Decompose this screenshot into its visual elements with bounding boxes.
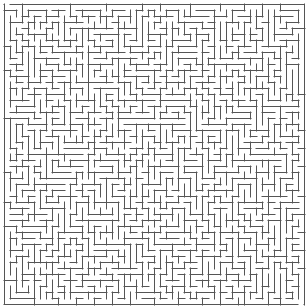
maze-grid (0, 0, 307, 308)
maze-walls (4, 4, 305, 305)
maze-canvas (0, 0, 307, 308)
